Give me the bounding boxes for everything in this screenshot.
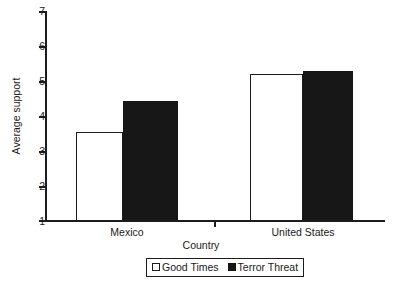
y-tick-label-7: 7: [15, 6, 45, 16]
bar-united-states-terror-threat: [303, 71, 353, 221]
bar-mexico-good-times: [76, 132, 123, 221]
x-axis-category-separator-tick: [214, 222, 216, 227]
y-axis-title: Average support: [10, 61, 22, 171]
chart-legend: Good Times Terror Threat: [146, 258, 304, 277]
y-tick-label-6: 6: [15, 41, 45, 51]
x-tick-label-mexico: Mexico: [87, 226, 167, 238]
x-axis-title: Country: [0, 239, 402, 251]
bar-chart-figure: 7 6 5 4 3 2 1 Average support Mexico Uni…: [0, 0, 402, 287]
y-tick-label-1: 1: [15, 216, 45, 226]
bar-mexico-terror-threat: [123, 101, 178, 221]
legend-entry-terror-threat: Terror Threat: [228, 261, 299, 273]
bar-united-states-good-times: [250, 74, 303, 221]
legend-label-terror-threat: Terror Threat: [238, 261, 299, 273]
legend-label-good-times: Good Times: [162, 261, 219, 273]
x-tick-label-united-states: United States: [261, 226, 345, 238]
legend-entry-good-times: Good Times: [152, 261, 219, 273]
y-tick-label-2: 2: [15, 181, 45, 191]
filled-square-icon: [228, 263, 236, 271]
open-square-icon: [152, 263, 160, 271]
y-axis-line: [45, 11, 47, 222]
